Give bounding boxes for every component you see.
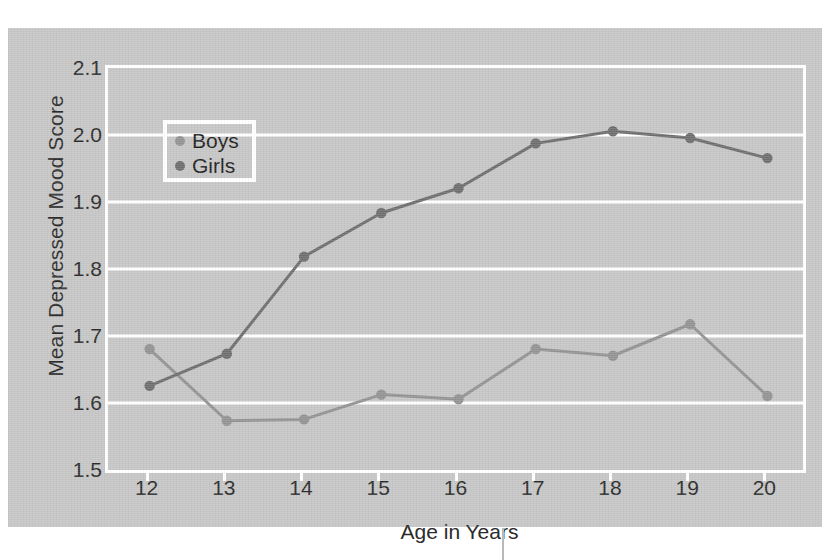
figure-panel: Mean Depressed Mood Score 1.51.61.71.81.… (8, 28, 822, 527)
data-point-marker (376, 208, 386, 218)
x-tick-label: 19 (667, 476, 707, 500)
y-tick-label: 2.0 (56, 123, 102, 147)
x-tick-label: 17 (513, 476, 553, 500)
legend-label: Girls (192, 155, 235, 176)
data-point-marker (531, 138, 541, 148)
legend-label: Boys (192, 130, 239, 151)
x-axis-tick-labels: 121314151617181920 (105, 476, 814, 510)
data-point-marker (144, 381, 154, 391)
data-point-marker (685, 133, 695, 143)
data-point-marker (299, 414, 309, 424)
legend-entry: Boys (175, 128, 252, 153)
data-point-marker (608, 351, 618, 361)
data-point-marker (376, 389, 386, 399)
y-axis-tick-labels: 1.51.61.71.81.92.02.1 (46, 28, 102, 527)
x-tick-label: 20 (744, 476, 784, 500)
data-point-marker (685, 319, 695, 329)
y-tick-label: 2.1 (56, 56, 102, 80)
x-axis-title: Age in Years (113, 520, 806, 544)
data-point-marker (531, 344, 541, 354)
legend-circle-marker (175, 136, 185, 146)
x-tick-label: 15 (358, 476, 398, 500)
y-tick-label: 1.7 (56, 324, 102, 348)
y-tick-label: 1.5 (56, 458, 102, 482)
x-tick-label: 13 (204, 476, 244, 500)
data-point-marker (453, 183, 463, 193)
data-point-marker (762, 391, 772, 401)
y-tick-label: 1.9 (56, 190, 102, 214)
plot-area: BoysGirls (105, 65, 806, 473)
legend-entry: Girls (175, 153, 252, 178)
data-point-marker (222, 349, 232, 359)
x-tick-label: 18 (590, 476, 630, 500)
y-tick-label: 1.6 (56, 391, 102, 415)
x-tick-label: 14 (281, 476, 321, 500)
y-tick-label: 1.8 (56, 257, 102, 281)
series-line-boys (150, 324, 768, 420)
page-rule-divider (502, 528, 504, 560)
data-point-marker (222, 416, 232, 426)
data-point-marker (608, 126, 618, 136)
x-tick-label: 12 (127, 476, 167, 500)
data-point-marker (299, 251, 309, 261)
data-point-marker (762, 153, 772, 163)
legend: BoysGirls (163, 120, 256, 182)
data-point-marker (453, 394, 463, 404)
data-point-marker (144, 344, 154, 354)
legend-circle-marker (175, 161, 185, 171)
x-tick-label: 16 (436, 476, 476, 500)
